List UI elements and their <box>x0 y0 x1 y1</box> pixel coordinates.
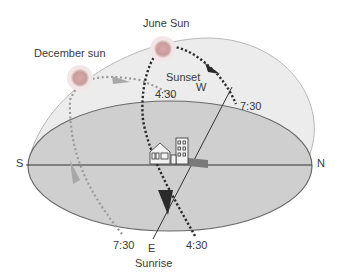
sun-path-diagram <box>0 0 340 279</box>
june-sunrise-time: 4:30 <box>186 240 207 251</box>
december-sunrise-time: 7:30 <box>113 240 134 251</box>
june-sun-icon <box>150 36 176 62</box>
sunrise-label: Sunrise <box>135 258 172 269</box>
north-label: N <box>317 158 325 169</box>
south-label: S <box>16 158 23 169</box>
december-sun-icon <box>67 65 93 91</box>
west-label: W <box>196 82 206 93</box>
east-label: E <box>148 243 155 254</box>
december-sunset-time: 4:30 <box>155 89 176 100</box>
december-sun-label: December sun <box>34 48 106 59</box>
june-sun-label: June Sun <box>143 18 189 29</box>
june-sunset-time: 7:30 <box>240 101 261 112</box>
ground-plane <box>28 101 312 231</box>
